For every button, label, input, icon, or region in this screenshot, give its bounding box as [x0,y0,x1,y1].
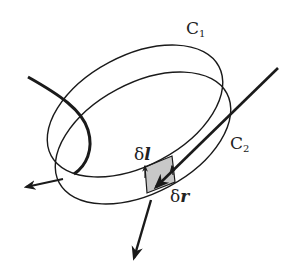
label-c2: C2 [230,135,249,154]
field-line-straight [156,68,278,187]
label-delta-r: δr [170,188,189,205]
loop-c2 [33,45,252,231]
left-arrow [26,179,63,187]
bottom-arrow [134,200,151,258]
label-c1: C1 [186,20,205,39]
diagram-canvas: C1 C2 δl δr [0,0,303,276]
diagram-svg [0,0,303,276]
field-line-curve [28,77,90,174]
loop-c1 [25,18,244,204]
label-delta-l: δl [134,146,151,163]
